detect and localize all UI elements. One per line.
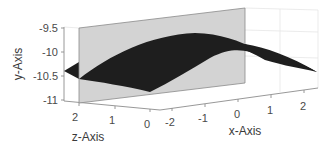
y-tick-label: -11 [43, 94, 58, 106]
y-axis-tick-labels: -9.5 -10 -10.5 -11 [33, 22, 58, 106]
x-tick-label: 2 [300, 100, 306, 112]
z-axis-title: z-Axis [72, 130, 105, 144]
z-tick-label: 0 [144, 118, 150, 130]
z-axis [64, 101, 160, 112]
z-tick-label: 2 [72, 111, 78, 123]
y-tick-label: -10 [42, 46, 58, 58]
z-axis-tick-labels: 2 1 0 [72, 111, 150, 130]
surface-left-part [64, 62, 79, 79]
y-tick-label: -10.5 [33, 70, 58, 82]
x-axis-title: x-Axis [229, 124, 262, 138]
y-axis [61, 27, 64, 101]
surface-3d-plot: -9.5 -10 -10.5 -11 y-Axis 2 1 0 z-Axis -… [0, 0, 334, 147]
x-tick-label: -2 [165, 116, 175, 128]
x-tick-label: 0 [234, 108, 240, 120]
y-tick-label: -9.5 [39, 22, 58, 34]
x-tick-label: 1 [267, 104, 273, 116]
x-tick-label: -1 [198, 112, 208, 124]
z-tick-label: 1 [109, 114, 115, 126]
y-axis-title: y-Axis [11, 48, 25, 81]
